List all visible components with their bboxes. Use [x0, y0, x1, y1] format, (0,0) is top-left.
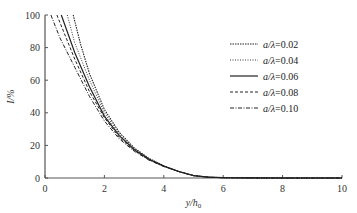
y-tick-label: 100: [25, 10, 40, 21]
series-line-3: [57, 15, 342, 178]
chart: 0246810020406080100 a/λ=0.02a/λ=0.04a/λ=…: [0, 0, 357, 213]
y-tick-label: 0: [35, 173, 40, 184]
legend-label: a/λ=0.06: [263, 71, 298, 82]
legend-label: a/λ=0.10: [263, 103, 298, 114]
y-axis-label: I/%: [5, 89, 16, 104]
x-tick-label: 6: [221, 183, 226, 194]
x-axis-label: y/h0: [185, 197, 202, 210]
legend: a/λ=0.02a/λ=0.04a/λ=0.06a/λ=0.08a/λ=0.10: [230, 39, 298, 114]
y-tick-label: 20: [30, 140, 40, 151]
legend-label: a/λ=0.02: [263, 39, 298, 50]
x-tick-label: 10: [337, 183, 347, 194]
y-tick-label: 80: [30, 42, 40, 53]
legend-label: a/λ=0.04: [263, 55, 298, 66]
x-tick-label: 0: [43, 183, 48, 194]
series-layer: [51, 15, 342, 178]
y-tick-label: 40: [30, 107, 40, 118]
series-line-0: [73, 15, 342, 178]
legend-label: a/λ=0.08: [263, 87, 298, 98]
series-line-2: [61, 15, 342, 178]
series-line-1: [67, 15, 342, 178]
x-tick-label: 2: [102, 183, 107, 194]
x-tick-label: 4: [161, 183, 166, 194]
y-tick-label: 60: [30, 75, 40, 86]
x-tick-label: 8: [280, 183, 285, 194]
